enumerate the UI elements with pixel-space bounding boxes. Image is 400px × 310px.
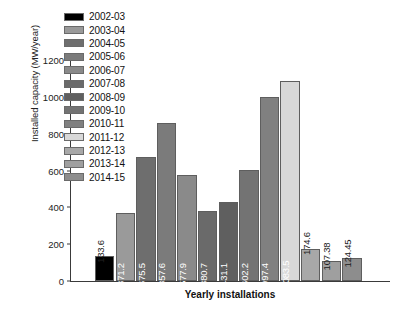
legend-label: 2010-11 xyxy=(89,118,124,129)
legend-label: 2006-07 xyxy=(89,65,125,76)
legend-label: 2003-04 xyxy=(89,25,125,36)
y-axis-tick-label: 1000 xyxy=(30,91,64,102)
bar: 1083.5 xyxy=(280,81,299,281)
bar: 133.6 xyxy=(95,256,114,281)
legend-item: 2007-08 xyxy=(64,77,125,90)
bar: 602.2 xyxy=(239,170,258,281)
bar-value-label: 577.9 xyxy=(178,263,188,286)
legend-swatch xyxy=(64,66,84,74)
legend-item: 2012-13 xyxy=(64,144,125,157)
legend-swatch xyxy=(64,160,84,168)
legend-item: 2009-10 xyxy=(64,104,125,117)
legend-label: 2002-03 xyxy=(89,11,125,22)
legend-item: 2010-11 xyxy=(64,117,125,130)
y-axis-tick-label: 1200 xyxy=(30,55,64,66)
legend-item: 2003-04 xyxy=(64,23,125,36)
legend-swatch xyxy=(64,133,84,141)
bar: 675.5 xyxy=(136,157,155,281)
bar: 577.9 xyxy=(177,175,196,281)
legend-swatch xyxy=(64,173,84,181)
bar: 997.4 xyxy=(260,97,279,281)
bar-value-label: 1083.5 xyxy=(281,260,291,288)
legend-swatch xyxy=(64,120,84,128)
y-axis-tick-labels: 020040060080010001200 xyxy=(30,0,64,310)
y-axis-tick-label: 0 xyxy=(30,276,64,287)
bar: 380.7 xyxy=(198,211,217,281)
bar-value-label: 133.6 xyxy=(95,240,105,263)
bar: 857.6 xyxy=(157,123,176,281)
legend-swatch xyxy=(64,53,84,61)
legend-swatch xyxy=(64,106,84,114)
bar-value-label: 174.6 xyxy=(301,232,311,255)
bar-value-label: 675.5 xyxy=(136,263,146,286)
y-axis-tick-label: 400 xyxy=(30,202,64,213)
legend-item: 2004-05 xyxy=(64,37,125,50)
bar-value-label: 431.1 xyxy=(219,263,229,286)
legend-swatch xyxy=(64,93,84,101)
legend-item: 2008-09 xyxy=(64,90,125,103)
bar-value-label: 371.2 xyxy=(116,263,126,286)
y-axis-tick-label: 600 xyxy=(30,165,64,176)
bar-chart-figure: Installed capacity (MW/year) 02004006008… xyxy=(0,0,400,310)
legend-label: 2014-15 xyxy=(89,172,125,183)
bar-value-label: 997.4 xyxy=(260,263,270,286)
legend-label: 2012-13 xyxy=(89,145,125,156)
x-axis-title: Yearly installations xyxy=(70,289,390,300)
legend-label: 2008-09 xyxy=(89,92,125,103)
chart-legend: 2002-032003-042004-052005-062006-072007-… xyxy=(64,10,125,184)
legend-label: 2011-12 xyxy=(89,132,124,143)
y-axis-tick-label: 800 xyxy=(30,128,64,139)
legend-item: 2006-07 xyxy=(64,64,125,77)
y-axis-tick-label: 200 xyxy=(30,239,64,250)
legend-label: 2007-08 xyxy=(89,78,125,89)
legend-item: 2013-14 xyxy=(64,157,125,170)
legend-label: 2013-14 xyxy=(89,158,125,169)
legend-swatch xyxy=(64,80,84,88)
bar: 371.2 xyxy=(116,213,135,281)
legend-item: 2011-12 xyxy=(64,131,125,144)
bar-value-label: 124.45 xyxy=(342,239,352,267)
bar-value-label: 602.2 xyxy=(239,263,249,286)
legend-swatch xyxy=(64,147,84,155)
bar: 431.1 xyxy=(219,202,238,281)
legend-label: 2005-06 xyxy=(89,51,125,62)
bar-value-label: 380.7 xyxy=(198,263,208,286)
legend-item: 2014-15 xyxy=(64,171,125,184)
bar-value-label: 857.6 xyxy=(157,263,167,286)
legend-swatch xyxy=(64,26,84,34)
legend-item: 2002-03 xyxy=(64,10,125,23)
bar-value-label: 107.38 xyxy=(322,242,332,270)
legend-label: 2009-10 xyxy=(89,105,125,116)
legend-item: 2005-06 xyxy=(64,50,125,63)
bar: 124.45 xyxy=(342,258,361,281)
legend-label: 2004-05 xyxy=(89,38,125,49)
bar: 174.6 xyxy=(301,249,320,281)
bar: 107.38 xyxy=(322,261,341,281)
legend-swatch xyxy=(64,13,84,21)
legend-swatch xyxy=(64,39,84,47)
